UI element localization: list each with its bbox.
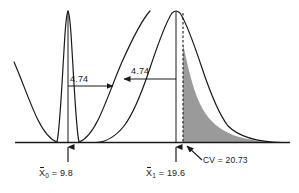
- mean-alt-subscript: 1: [152, 172, 156, 179]
- power-curve-diagram: 4.74 4.74 CV = 20.73 X0 = 9.8 X1 = 19.6: [0, 0, 299, 193]
- mean-null-label: X0 = 9.8: [39, 168, 73, 178]
- critical-value-pointer-arrow: [187, 146, 202, 160]
- distance-label-left: 4.74: [70, 74, 88, 84]
- diagram-canvas: [0, 0, 299, 193]
- mean-null-value: = 9.8: [52, 168, 73, 178]
- mean-alt-value: = 19.6: [159, 168, 185, 178]
- mean-alt-label: X1 = 19.6: [146, 168, 185, 178]
- mean-null-subscript: 0: [45, 172, 49, 179]
- critical-value-label: CV = 20.73: [203, 155, 248, 165]
- distance-label-right: 4.74: [131, 66, 149, 76]
